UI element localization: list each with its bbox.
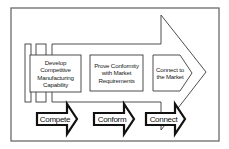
stage-label-line: Competitive — [37, 66, 74, 73]
stage-label-line: with Market — [94, 69, 139, 76]
stage-label-line: Prove Conformity — [94, 62, 139, 69]
stage-label-develop: Develop Competitive Manufacturing Capabi… — [30, 55, 81, 92]
stage-label-line: Requirements — [94, 77, 139, 84]
stage-label-line: Manufacturing — [37, 74, 74, 81]
outcome-label-connect: Connect — [147, 113, 180, 125]
stage-label-line: Capability — [37, 81, 74, 88]
stage-label-line: Develop — [37, 59, 74, 66]
outcome-label-conform: Conform — [95, 113, 129, 125]
outcome-label-compete: Compete — [38, 113, 72, 125]
stage-label-line: Connect to — [156, 66, 184, 73]
stage-label-line: the Market — [156, 73, 184, 80]
stage-label-connect: Connect to the Market — [153, 55, 187, 91]
stage-label-prove: Prove Conformity with Market Requirement… — [90, 55, 143, 91]
